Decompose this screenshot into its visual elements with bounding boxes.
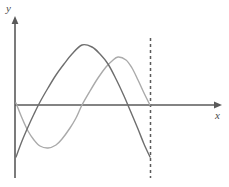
dark-parabola-curve [16, 45, 150, 157]
x-axis [15, 102, 222, 109]
plot-canvas [0, 0, 229, 187]
x-axis-arrowhead-icon [214, 102, 222, 109]
y-axis-label: y [6, 3, 11, 14]
y-axis-arrowhead-icon [12, 16, 19, 24]
figure-container: y x [0, 0, 229, 187]
light-wave-curve [16, 57, 150, 148]
x-axis-label: x [215, 110, 220, 121]
